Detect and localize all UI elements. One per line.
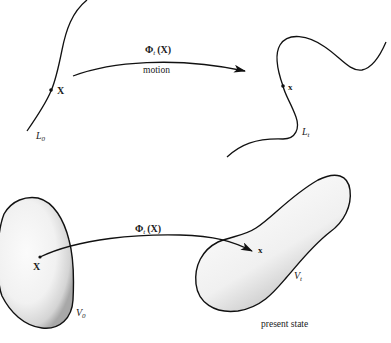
reference-point-dot [49, 88, 53, 92]
current-point-dot [281, 84, 285, 88]
bottom-panel: X V0 x Vt Φt(X) present state [0, 175, 350, 329]
current-point-label: x [288, 82, 293, 92]
top-panel: X L0 Φt(X) motion x Lt [27, 0, 386, 157]
reference-body-label: V0 [76, 307, 86, 320]
reference-point-label: X [57, 85, 65, 96]
present-state-caption: present state [261, 319, 308, 329]
motion-diagram: X L0 Φt(X) motion x Lt X V0 x Vt Φt(X) p… [0, 0, 391, 343]
motion-caption: motion [143, 65, 170, 75]
current-curve-label: Lt [301, 126, 311, 139]
current-body-label: Vt [294, 270, 303, 283]
reference-material-point-label: X [33, 261, 41, 272]
deformation-map-label: Φt(X) [135, 223, 161, 236]
reference-curve-label: L0 [35, 130, 46, 143]
motion-map-label: Φt(X) [145, 44, 171, 57]
current-material-point-label: x [258, 245, 263, 255]
reference-curve-L0 [27, 0, 87, 131]
current-curve-Lt [227, 37, 386, 157]
current-body-Vt [196, 175, 351, 311]
